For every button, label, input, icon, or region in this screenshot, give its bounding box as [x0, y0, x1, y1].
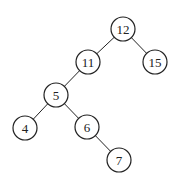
edge-5-4 — [33, 104, 48, 120]
binary-tree-diagram: 1211155467 — [0, 0, 179, 185]
node-label: 11 — [82, 55, 95, 70]
edge-12-11 — [97, 37, 115, 54]
tree-nodes: 1211155467 — [13, 17, 167, 172]
tree-node-5: 5 — [44, 83, 68, 107]
node-label: 6 — [84, 120, 91, 135]
tree-node-11: 11 — [76, 50, 100, 74]
node-label: 4 — [22, 121, 29, 136]
node-label: 7 — [116, 153, 123, 168]
tree-node-6: 6 — [75, 115, 99, 139]
tree-node-15: 15 — [143, 50, 167, 74]
node-label: 5 — [53, 88, 60, 103]
node-label: 12 — [117, 22, 130, 37]
edge-6-7 — [95, 136, 110, 152]
tree-node-7: 7 — [107, 148, 131, 172]
tree-node-4: 4 — [13, 116, 37, 140]
tree-node-12: 12 — [111, 17, 135, 41]
edge-12-15 — [131, 38, 146, 54]
edge-5-6 — [64, 104, 78, 119]
node-label: 15 — [149, 55, 162, 70]
edge-11-5 — [64, 71, 79, 87]
